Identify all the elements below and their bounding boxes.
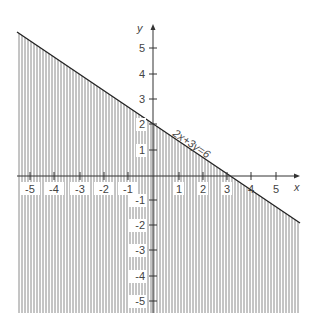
svg-text:4: 4 — [248, 183, 254, 195]
svg-text:2: 2 — [139, 118, 145, 130]
y-axis-label: y — [136, 22, 144, 34]
svg-text:4: 4 — [139, 68, 145, 80]
svg-text:-1: -1 — [123, 183, 133, 195]
svg-text:3: 3 — [139, 93, 145, 105]
svg-text:1: 1 — [176, 183, 182, 195]
svg-text:-3: -3 — [75, 183, 85, 195]
svg-text:-4: -4 — [135, 270, 145, 282]
shaded-region — [17, 20, 300, 313]
svg-text:-5: -5 — [25, 183, 35, 195]
inequality-graph: -5 -4 -3 -2 -1 1 2 3 4 5 5 4 3 2 1 -1 -2… — [0, 0, 314, 327]
x-axis-arrow-icon — [294, 174, 300, 179]
svg-text:-4: -4 — [49, 183, 59, 195]
svg-text:2: 2 — [200, 183, 206, 195]
svg-text:-5: -5 — [135, 295, 145, 307]
svg-text:5: 5 — [139, 42, 145, 54]
svg-text:1: 1 — [139, 144, 145, 156]
svg-text:-1: -1 — [135, 194, 145, 206]
svg-text:3: 3 — [224, 183, 230, 195]
svg-text:-2: -2 — [99, 183, 109, 195]
svg-text:5: 5 — [273, 183, 279, 195]
svg-text:-2: -2 — [135, 219, 145, 231]
x-axis-label: x — [293, 181, 300, 193]
y-axis-arrow-icon — [151, 24, 156, 30]
svg-text:-3: -3 — [135, 244, 145, 256]
